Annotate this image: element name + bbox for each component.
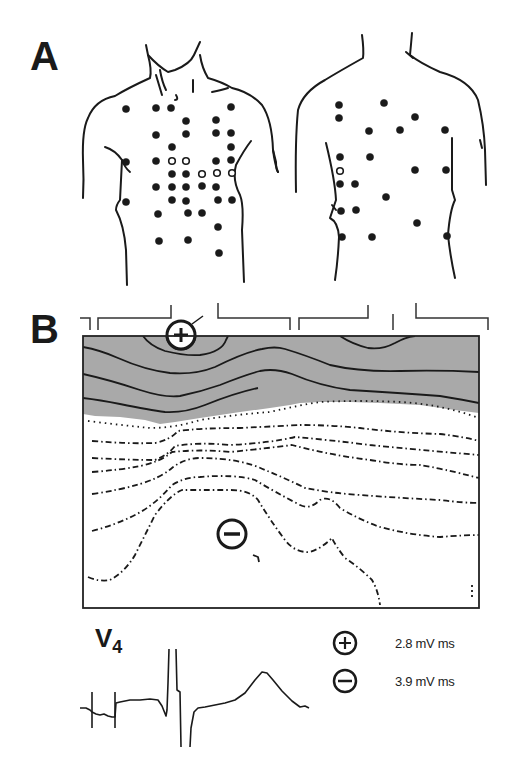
negative-minimum-marker [218, 520, 246, 548]
panel-a-label: A [30, 36, 59, 76]
electrode-dot [227, 143, 234, 150]
electrode-dot [336, 153, 343, 160]
electrode-markers [122, 99, 450, 256]
electrode-dot [212, 129, 219, 136]
electrode-dot [351, 180, 358, 187]
electrode-open-dot [199, 171, 206, 178]
electrode-dot [212, 183, 219, 190]
electrode-dot [152, 104, 159, 111]
electrode-open-dot [229, 170, 236, 177]
electrode-dot [382, 193, 389, 200]
electrode-dot [168, 183, 175, 190]
electrode-dot [338, 233, 345, 240]
panel-b-label: B [30, 309, 59, 349]
electrode-dot [167, 104, 174, 111]
electrode-dot [198, 209, 205, 216]
electrode-dot [442, 166, 449, 173]
posterior-torso-outline [296, 33, 486, 280]
electrode-dot [182, 183, 189, 190]
legend-plus-icon [334, 632, 356, 654]
electrode-dot [335, 101, 342, 108]
electrode-dot [168, 170, 175, 177]
electrode-dot [441, 126, 448, 133]
electrode-dot [227, 103, 234, 110]
electrode-dot [411, 166, 418, 173]
electrode-open-dot [183, 158, 190, 165]
electrode-dot [368, 233, 375, 240]
electrode-dot [152, 131, 159, 138]
electrode-dot [212, 157, 219, 164]
electrode-dot [413, 219, 420, 226]
electrode-dot [182, 117, 189, 124]
electrode-dot [335, 114, 342, 121]
electrode-dot [155, 237, 162, 244]
electrode-dot [154, 210, 161, 217]
electrode-dot [366, 153, 373, 160]
electrode-dot [227, 129, 234, 136]
electrode-open-dot [214, 170, 221, 177]
legend-negative-value: 3.9 mV ms [395, 674, 454, 689]
electrode-dot [122, 158, 129, 165]
electrode-dot [182, 170, 189, 177]
electrode-dot [198, 182, 205, 189]
electrode-dot [365, 127, 372, 134]
electrode-dot [411, 113, 418, 120]
electrode-dot [214, 223, 221, 230]
electrode-dot [184, 209, 191, 216]
legend-minus-icon [334, 670, 356, 692]
electrode-dot [215, 249, 222, 256]
isointegral-map [83, 321, 479, 608]
figure-canvas [0, 0, 509, 768]
electrode-dot [152, 183, 159, 190]
lead-letter: V [95, 623, 112, 653]
electrode-dot [443, 232, 450, 239]
electrode-dot [182, 197, 189, 204]
electrode-dot [214, 196, 221, 203]
electrode-dot [152, 157, 159, 164]
electrode-dot [184, 236, 191, 243]
ecg-v4-trace [80, 649, 309, 747]
electrode-open-dot [169, 158, 176, 165]
anterior-torso-outline [83, 42, 278, 285]
electrode-dot [227, 156, 234, 163]
electrode-dot [228, 196, 235, 203]
electrode-dot [122, 198, 129, 205]
electrode-dot [352, 206, 359, 213]
electrode-dot [168, 196, 175, 203]
lead-label: V4 [95, 625, 122, 656]
electrode-open-dot [337, 168, 344, 175]
map-region-brackets [80, 303, 488, 330]
electrode-dot [336, 180, 343, 187]
electrode-dot [168, 143, 175, 150]
lead-subscript: 4 [112, 637, 122, 657]
electrode-dot [212, 116, 219, 123]
legend-positive-value: 2.8 mV ms [395, 636, 454, 651]
electrode-dot [396, 126, 403, 133]
electrode-dot [122, 105, 129, 112]
electrode-dot [182, 130, 189, 137]
electrode-dot [337, 207, 344, 214]
electrode-dot [380, 99, 387, 106]
